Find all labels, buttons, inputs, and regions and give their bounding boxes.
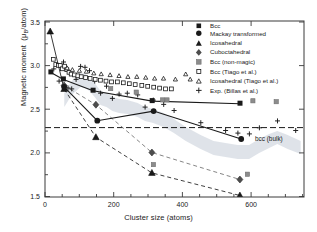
legend-label-icosahedral-tiago: Icosahedral (Tiago et al.) [210, 77, 278, 84]
legend-label-bcc-nonmagic: Bcc (non-magic) [210, 58, 255, 65]
xtick-400: 400 [177, 201, 189, 208]
ytick-1.5: 1.5 [30, 193, 40, 200]
xtick-0: 0 [43, 201, 47, 208]
bcc-bulk-label: bcc (bulk) [255, 135, 283, 143]
legend-label-exp-billas: Exp. (Billas et al.) [210, 87, 258, 94]
plot-area: bcc (bulk) [0, 0, 317, 232]
xtick-200: 200 [108, 201, 120, 208]
ytick-3.0: 3.0 [30, 62, 40, 69]
y-axis-tick-labels: 1.5 2.0 2.5 3.0 3.5 [30, 19, 40, 201]
legend-label-icosahedral: Icosahedral [210, 39, 242, 46]
xtick-600: 600 [245, 201, 257, 208]
legend-marker-bcc [197, 24, 202, 29]
legend-label-mackay: Mackay transformed [210, 30, 267, 37]
legend-marker-bcc-tiago [197, 70, 201, 74]
ytick-2.0: 2.0 [30, 149, 40, 156]
ytick-2.5: 2.5 [30, 106, 40, 113]
ytick-3.5: 3.5 [30, 19, 40, 26]
legend-label-bcc-tiago: Bcc (Tiago et al.) [210, 68, 257, 75]
figure-container: Magnetic moment (μB/atom) Cluster size (… [0, 0, 317, 232]
legend-marker-mackay [196, 31, 201, 36]
legend-marker-bcc-nonmagic [197, 60, 202, 65]
legend-label-bcc: Bcc [210, 22, 220, 29]
x-axis-tick-labels: 0 200 400 600 [43, 201, 257, 208]
legend-label-cuboctahedral: Cuboctahedral [210, 48, 250, 55]
